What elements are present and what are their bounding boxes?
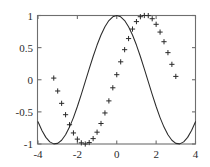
data-point-marker bbox=[94, 130, 99, 135]
data-point-marker bbox=[169, 62, 174, 67]
y-tick-label: 0.5 bbox=[19, 42, 33, 54]
chart-figure: -4-2024 -1-0.500.51 bbox=[0, 0, 210, 167]
x-tick-label: -2 bbox=[73, 148, 82, 160]
data-point-marker bbox=[110, 85, 115, 90]
data-point-marker bbox=[146, 13, 151, 18]
data-point-marker bbox=[173, 74, 178, 79]
data-point-marker bbox=[55, 88, 60, 93]
data-point-marker bbox=[165, 50, 170, 55]
data-point-marker bbox=[122, 47, 127, 52]
data-point-marker bbox=[102, 110, 107, 115]
y-tick-label: 0 bbox=[28, 74, 34, 86]
data-point-marker bbox=[134, 19, 139, 24]
x-tick-label: 2 bbox=[153, 148, 159, 160]
y-tick-label: -1 bbox=[24, 138, 33, 150]
y-tick-marks bbox=[38, 16, 196, 145]
plot-canvas: -4-2024 -1-0.500.51 bbox=[0, 0, 210, 167]
axes-frame bbox=[38, 16, 196, 145]
x-tick-label: 4 bbox=[193, 148, 199, 160]
data-point-marker bbox=[154, 22, 159, 27]
data-point-marker bbox=[161, 39, 166, 44]
data-point-marker bbox=[118, 59, 123, 64]
x-tick-marks bbox=[38, 16, 196, 145]
data-point-marker bbox=[75, 137, 80, 142]
x-tick-label: 0 bbox=[114, 148, 120, 160]
series-cos-line bbox=[38, 16, 196, 144]
data-point-marker bbox=[157, 29, 162, 34]
y-tick-labels: -1-0.500.51 bbox=[16, 10, 34, 151]
data-point-marker bbox=[98, 121, 103, 126]
data-point-marker bbox=[71, 130, 76, 135]
y-tick-label: 1 bbox=[28, 10, 34, 22]
data-point-marker bbox=[91, 136, 96, 141]
data-point-marker bbox=[106, 98, 111, 103]
data-point-marker bbox=[63, 112, 68, 117]
data-point-marker bbox=[79, 140, 84, 145]
data-point-marker bbox=[114, 72, 119, 77]
data-point-marker bbox=[59, 101, 64, 106]
data-point-marker bbox=[126, 36, 131, 41]
x-tick-label: -4 bbox=[33, 148, 43, 160]
y-tick-label: -0.5 bbox=[16, 106, 34, 118]
data-point-marker bbox=[150, 16, 155, 21]
x-tick-labels: -4-2024 bbox=[33, 148, 198, 160]
data-point-marker bbox=[138, 14, 143, 19]
data-point-marker bbox=[51, 75, 56, 80]
